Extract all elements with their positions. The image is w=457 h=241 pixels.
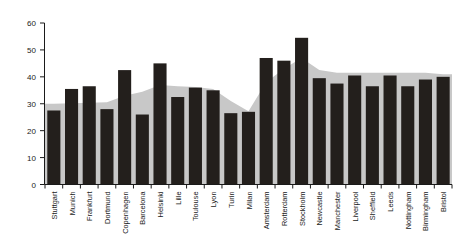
bar — [366, 86, 379, 184]
bar — [136, 115, 149, 185]
x-category-label: Stockholm — [298, 192, 307, 227]
x-category-label: Rotterdam — [280, 192, 289, 227]
bar — [65, 89, 78, 185]
x-category-label: Manchester — [333, 191, 342, 230]
bar — [83, 86, 96, 184]
bar — [295, 38, 308, 185]
bar — [313, 78, 326, 184]
bar — [47, 110, 60, 184]
x-category-label: Leeds — [386, 191, 395, 211]
x-category-label: Toulouse — [191, 192, 200, 222]
y-tick-label: 60 — [27, 19, 36, 28]
x-category-label: Birmingham — [421, 192, 430, 231]
x-category-label: Sheffield — [368, 192, 377, 221]
bar — [437, 77, 450, 185]
bar — [171, 97, 184, 184]
y-tick-label: 0 — [32, 181, 37, 190]
bar — [189, 88, 202, 185]
chart-canvas: 0102030405060 StuttgartMunichFrankfurtDo… — [0, 0, 457, 241]
y-tick-label: 50 — [27, 46, 36, 55]
x-category-label: Bristol — [439, 191, 448, 212]
x-category-label: Munich — [68, 192, 77, 216]
x-category-label: Amsterdam — [262, 192, 271, 230]
x-category-label: Milan — [245, 192, 254, 210]
bar — [419, 80, 432, 185]
x-category-label: Frankfurt — [85, 192, 94, 222]
x-category-label: Barcelona — [138, 191, 147, 225]
x-category-label: Turin — [227, 192, 236, 209]
bar — [242, 112, 255, 185]
bar — [330, 84, 343, 185]
bar — [384, 75, 397, 184]
bar-series — [47, 38, 449, 185]
bar — [401, 86, 414, 184]
y-tick-label: 30 — [27, 100, 36, 109]
bar — [348, 75, 361, 184]
bar-chart: 0102030405060 StuttgartMunichFrankfurtDo… — [0, 0, 457, 241]
x-category-label: Copenhagen — [121, 192, 130, 234]
bar — [224, 113, 237, 184]
x-category-label: Nottingham — [404, 192, 413, 230]
x-category-label: Lyon — [209, 192, 218, 208]
x-category-label: Stuttgart — [50, 192, 59, 220]
y-tick-label: 10 — [27, 154, 36, 163]
x-category-label-group: StuttgartMunichFrankfurtDortmundCopenhag… — [50, 191, 448, 234]
x-category-label: Lille — [174, 192, 183, 205]
x-category-label: Helsinki — [156, 191, 165, 217]
y-tick-label: 40 — [27, 73, 36, 82]
bar — [277, 61, 290, 185]
bar — [207, 90, 220, 184]
y-tick-group: 0102030405060 — [27, 19, 44, 190]
x-category-label: Liverpool — [351, 191, 360, 221]
x-category-label: Dortmund — [103, 192, 112, 224]
x-category-label: Newcastle — [315, 192, 324, 226]
bar — [118, 70, 131, 184]
bar — [100, 109, 113, 184]
bar — [153, 63, 166, 184]
y-tick-label: 20 — [27, 127, 36, 136]
x-tick-group — [45, 185, 452, 189]
bar — [260, 58, 273, 185]
